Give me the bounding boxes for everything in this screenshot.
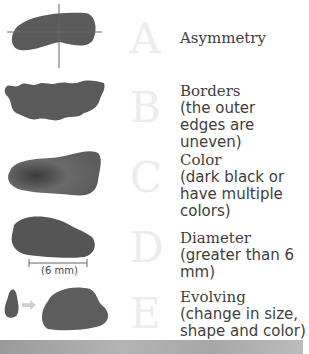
measure-label: (6 mm) — [41, 265, 78, 276]
letter-c: C — [130, 157, 162, 199]
multicolor-lesion-icon — [0, 145, 110, 213]
asymmetric-lesion-icon — [0, 0, 110, 75]
label-color: Color (dark black or have multiple color… — [180, 152, 308, 220]
item-evolving: E Evolving (change in size, shape and co… — [0, 283, 309, 340]
label-asymmetry: Asymmetry — [180, 30, 266, 47]
label-diameter: Diameter (greater than 6 mm) — [180, 230, 309, 281]
bottom-bar — [0, 340, 303, 354]
item-color: C Color (dark black or have multiple col… — [0, 145, 309, 213]
label-borders: Borders (the outer edges are uneven) — [180, 83, 305, 151]
irregular-border-lesion-icon — [0, 75, 110, 145]
letter-a: A — [130, 18, 160, 60]
letter-d: D — [130, 227, 164, 269]
letter-b: B — [130, 87, 161, 129]
arrow-right-icon — [22, 300, 36, 310]
label-evolving: Evolving (change in size, shape and colo… — [180, 289, 308, 340]
item-borders: B Borders (the outer edges are uneven) — [0, 75, 309, 145]
item-asymmetry: A Asymmetry — [0, 0, 309, 75]
letter-e: E — [130, 293, 161, 335]
item-diameter: (6 mm) D Diameter (greater than 6 mm) — [0, 213, 309, 283]
evolving-lesion-icon — [0, 283, 115, 340]
